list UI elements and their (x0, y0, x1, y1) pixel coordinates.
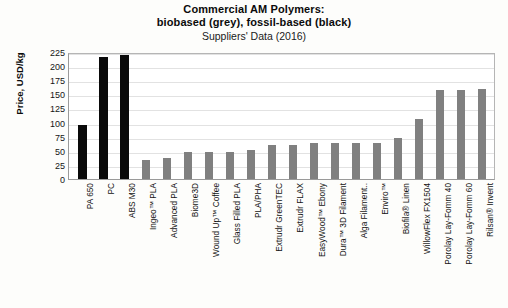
bar (184, 152, 192, 179)
x-tick-slot: PC (92, 181, 113, 306)
chart-figure: Commercial AM Polymers: biobased (grey),… (0, 0, 508, 308)
bar-slot (282, 54, 303, 179)
bar-slot (219, 54, 240, 179)
x-tick-slot: Rilsan® Invent (472, 181, 493, 306)
plot-area (68, 53, 495, 180)
bar-slot (450, 54, 471, 179)
bar-slot (93, 54, 114, 179)
bar-slot (429, 54, 450, 179)
x-tick-slot: WillowFlex FX1504 (409, 181, 430, 306)
chart-title-line2: biobased (grey), fossil-based (black) (0, 16, 508, 29)
bar (478, 89, 486, 179)
y-tick-label: 50 (38, 147, 65, 156)
chart-title-line1: Commercial AM Polymers: (0, 3, 508, 16)
x-tick-slot: Dura™ 3D Filament (324, 181, 345, 306)
x-tick-slot: Extrudr FLAX (282, 181, 303, 306)
bar-slot (261, 54, 282, 179)
bar (310, 143, 318, 179)
bar-slot (471, 54, 492, 179)
bar-slot (366, 54, 387, 179)
bar (163, 158, 171, 179)
x-tick-slot: Biofila® Linen (387, 181, 408, 306)
x-tick-slot: Porolay Lay-Fomm 60 (451, 181, 472, 306)
x-tick-slot: Extrudr GreenTEC (261, 181, 282, 306)
chart-subtitle: Suppliers' Data (2016) (0, 30, 508, 42)
bar (289, 145, 297, 179)
bar (268, 145, 276, 179)
y-tick-label: 175 (38, 77, 65, 86)
y-axis-tick-labels: 2252001751501251007550250 (38, 53, 65, 180)
bar (331, 143, 339, 179)
bar-slot (345, 54, 366, 179)
bar-slot (156, 54, 177, 179)
y-tick-label: 100 (38, 119, 65, 128)
x-tick-label: Rilsan® Invent (486, 183, 494, 237)
bar (373, 143, 381, 179)
bar-slot (408, 54, 429, 179)
bar (120, 55, 129, 179)
bar-series (69, 54, 494, 179)
x-tick-slot: Advanced PLA (155, 181, 176, 306)
y-tick-label: 0 (38, 176, 65, 185)
y-tick-label: 200 (38, 63, 65, 72)
bar (352, 143, 360, 179)
bar-slot (72, 54, 93, 179)
bar-slot (324, 54, 345, 179)
bar (205, 152, 213, 179)
x-tick-slot: PLA/PHA (240, 181, 261, 306)
bar-slot (198, 54, 219, 179)
bar-slot (240, 54, 261, 179)
bar (415, 119, 423, 179)
x-tick-slot: EasyWood™ Ebony (303, 181, 324, 306)
y-tick-label: 225 (38, 49, 65, 58)
x-tick-slot: Alga Filament.. (345, 181, 366, 306)
x-tick-slot: Wound Up™ Coffee (198, 181, 219, 306)
bar (394, 138, 402, 179)
y-axis-title: Price, USD/kg (14, 44, 25, 124)
x-tick-slot: Porolay Lay-Fomm 40 (430, 181, 451, 306)
bar-slot (114, 54, 135, 179)
x-tick-slot: Enviro™ (366, 181, 387, 306)
y-tick-label: 125 (38, 105, 65, 114)
bar-slot (387, 54, 408, 179)
bar (457, 90, 465, 179)
bar-slot (135, 54, 156, 179)
x-tick-slot: Glass Filled PLA (219, 181, 240, 306)
bar (247, 150, 255, 179)
x-tick-slot: Biome3D (176, 181, 197, 306)
x-tick-slot: ABS M30 (113, 181, 134, 306)
y-tick-label: 25 (38, 161, 65, 170)
x-tick-slot: PA 650 (71, 181, 92, 306)
bar-slot (177, 54, 198, 179)
x-tick-slot: Ingeo™ PLA (134, 181, 155, 306)
bar (99, 57, 108, 179)
x-axis-tick-labels: PA 650PCABS M30Ingeo™ PLAAdvanced PLABio… (68, 181, 495, 306)
y-tick-label: 75 (38, 133, 65, 142)
y-tick-label: 150 (38, 91, 65, 100)
bar (78, 125, 87, 179)
bar-slot (303, 54, 324, 179)
bar (142, 160, 150, 179)
bar (226, 152, 234, 179)
bar (436, 90, 444, 179)
chart-title-block: Commercial AM Polymers: biobased (grey),… (0, 3, 508, 42)
